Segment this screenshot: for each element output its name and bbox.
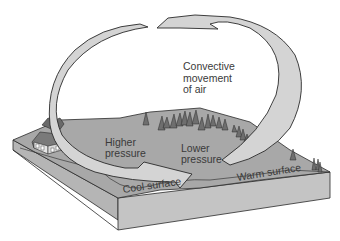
label-line: Convective [183, 61, 235, 73]
higher-pressure-label: Higher pressure [105, 137, 146, 159]
label-line: of air [183, 84, 235, 96]
convection-diagram: Convective movement of air Higher pressu… [0, 0, 340, 241]
label-line: pressure [105, 148, 146, 159]
label-line: pressure [181, 154, 222, 165]
convective-movement-label: Convective movement of air [183, 61, 235, 96]
diagram-graphic [0, 0, 340, 241]
lower-pressure-label: Lower pressure [181, 143, 222, 165]
